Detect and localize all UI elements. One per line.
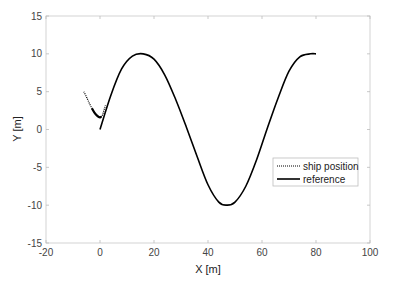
y-axis-label: Y [m] (11, 116, 23, 141)
chart: -20020406080100-15-10-5051015 X [m] Y [m… (0, 0, 393, 286)
ship-position-dense (92, 108, 101, 117)
y-tick-label: 5 (36, 86, 42, 97)
x-tick-label: 20 (148, 247, 160, 258)
x-tick-label: -20 (39, 247, 54, 258)
x-axis-label: X [m] (195, 263, 221, 275)
x-tick-label: 40 (202, 247, 214, 258)
x-tick-label: 60 (256, 247, 268, 258)
y-tick-label: 10 (31, 48, 43, 59)
x-tick-label: 0 (97, 247, 103, 258)
x-tick-label: 100 (362, 247, 379, 258)
legend-label-ship: ship position (303, 161, 359, 172)
y-tick-label: 0 (36, 124, 42, 135)
legend-label-reference: reference (303, 174, 346, 185)
axes-box (46, 16, 370, 243)
y-tick-label: -15 (28, 238, 43, 249)
legend: ship position reference (273, 158, 359, 186)
y-tick-label: -10 (28, 200, 43, 211)
x-tick-label: 80 (310, 247, 322, 258)
y-tick-label: 15 (31, 11, 43, 22)
y-tick-label: -5 (33, 162, 42, 173)
axis-ticks: -20020406080100-15-10-5051015 (28, 11, 379, 259)
